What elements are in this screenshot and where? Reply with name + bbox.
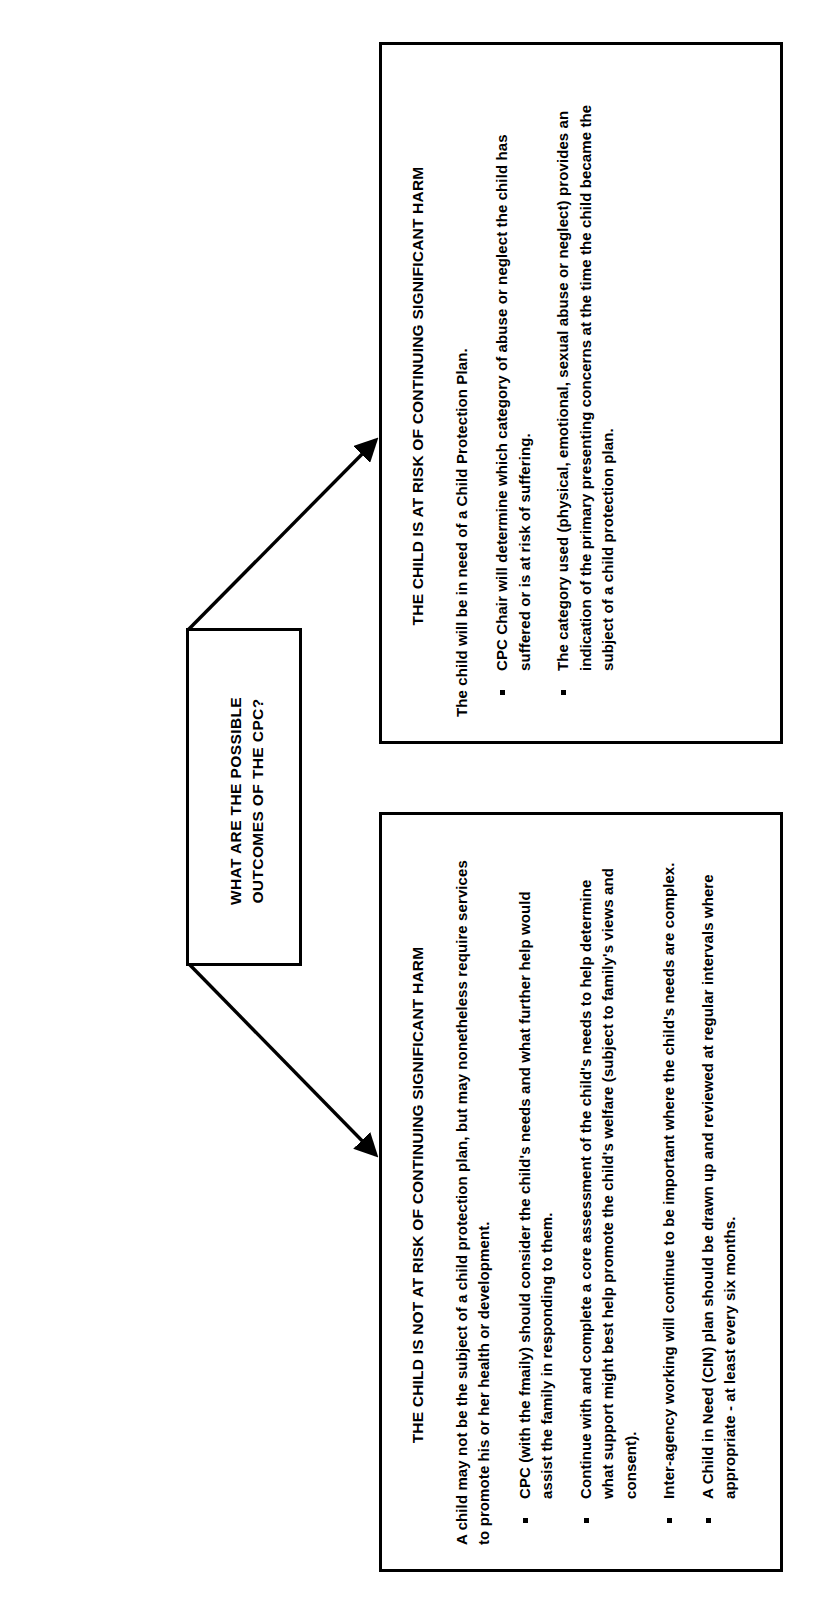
outcome-bullet-list-not-at-risk: CPC (with the fmaily) should consider th… [514, 845, 742, 1545]
square-bullet-icon [706, 1518, 711, 1523]
list-item-label: CPC (with the fmaily) should consider th… [516, 891, 556, 1499]
outcome-bullet-list-at-risk: CPC Chair will determine which category … [491, 75, 620, 717]
square-bullet-icon [523, 1518, 528, 1523]
question-title: WHAT ARE THE POSSIBLE OUTCOMES OF THE CP… [225, 651, 270, 951]
list-item-label: Inter-agency working will continue to be… [660, 862, 677, 1499]
list-item-label: CPC Chair will determine which category … [493, 134, 533, 671]
list-item-label: Continue with and complete a core assess… [577, 868, 639, 1499]
outcome-heading-at-risk: THE CHILD IS AT RISK OF CONTINUING SIGNI… [408, 75, 429, 717]
outcome-heading-not-at-risk: THE CHILD IS NOT AT RISK OF CONTINUING S… [408, 845, 429, 1545]
outcome-content-at-risk: THE CHILD IS AT RISK OF CONTINUING SIGNI… [408, 75, 760, 717]
outcome-content-not-at-risk: THE CHILD IS NOT AT RISK OF CONTINUING S… [408, 845, 760, 1545]
list-item: Continue with and complete a core assess… [575, 845, 643, 1545]
arrow-to-not-at-risk [188, 963, 376, 1155]
list-item: CPC (with the fmaily) should consider th… [514, 845, 559, 1545]
arrow-to-at-risk [188, 440, 376, 630]
outcome-intro-not-at-risk: A child may not be the subject of a chil… [451, 845, 496, 1545]
square-bullet-icon [500, 690, 505, 695]
square-bullet-icon [561, 690, 566, 695]
square-bullet-icon [584, 1518, 589, 1523]
outcome-intro-at-risk: The child will be in need of a Child Pro… [451, 75, 474, 717]
list-item-label: A Child in Need (CIN) plan should be dra… [699, 874, 739, 1499]
outcome-box-at-risk: THE CHILD IS AT RISK OF CONTINUING SIGNI… [379, 42, 783, 744]
outcome-box-not-at-risk: THE CHILD IS NOT AT RISK OF CONTINUING S… [379, 812, 783, 1572]
list-item: CPC Chair will determine which category … [491, 75, 536, 717]
list-item-label: The category used (physical, emotional, … [554, 105, 616, 671]
list-item: The category used (physical, emotional, … [552, 75, 620, 717]
list-item: Inter-agency working will continue to be… [658, 845, 681, 1545]
square-bullet-icon [667, 1518, 672, 1523]
question-box: WHAT ARE THE POSSIBLE OUTCOMES OF THE CP… [186, 628, 302, 966]
list-item: A Child in Need (CIN) plan should be dra… [697, 845, 742, 1545]
